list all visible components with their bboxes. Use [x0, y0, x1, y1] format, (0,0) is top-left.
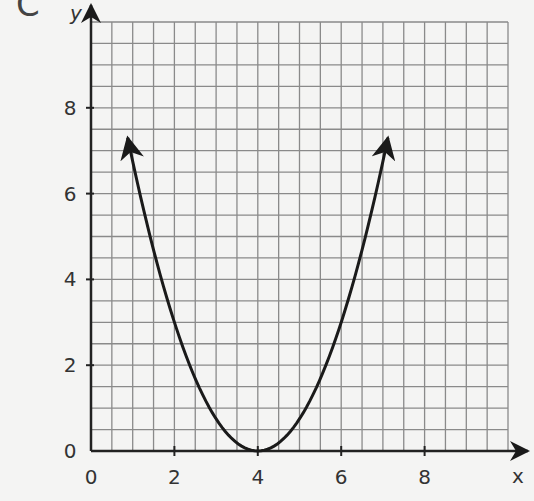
tick-marks — [86, 108, 425, 456]
y-axis-label: y — [69, 1, 83, 25]
x-tick-label: 8 — [418, 465, 431, 489]
y-tick-labels: 02468 — [64, 96, 77, 463]
x-tick-label: 4 — [251, 465, 264, 489]
x-tick-label: 6 — [335, 465, 348, 489]
x-tick-label: 2 — [168, 465, 181, 489]
parabola-chart: C 02468 02468 x y — [0, 0, 534, 501]
grid-lines — [91, 22, 508, 451]
y-tick-label: 4 — [64, 267, 77, 291]
x-tick-label: 0 — [85, 465, 98, 489]
y-tick-label: 8 — [64, 96, 77, 120]
y-tick-label: 6 — [64, 182, 77, 206]
y-tick-label: 0 — [64, 439, 77, 463]
axes — [91, 5, 528, 451]
panel-label: C — [16, 0, 40, 24]
y-tick-label: 2 — [64, 353, 77, 377]
x-tick-labels: 02468 — [85, 465, 431, 489]
x-axis-label: x — [512, 464, 524, 488]
